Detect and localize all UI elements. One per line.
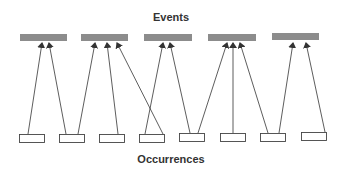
occurrence-3-box — [100, 135, 125, 143]
arrow-occurrence-5-to-event-4 — [198, 43, 227, 133]
arrow-occurrence-4-to-event-3 — [145, 43, 163, 134]
occurrences-label: Occurrences — [0, 153, 342, 165]
arrow-occurrence-7-to-event-5 — [279, 43, 293, 133]
event-2-bar — [81, 34, 128, 41]
occurrence-8-box — [302, 133, 327, 141]
arrow-occurrence-4-to-event-2 — [117, 43, 163, 134]
arrow-occurrence-2-to-event-2 — [78, 43, 95, 134]
event-4-bar — [208, 34, 256, 41]
arrow-occurrence-7-to-event-4 — [240, 43, 268, 133]
occurrence-2-box — [60, 135, 85, 143]
event-5-bar — [272, 33, 319, 40]
arrow-occurrence-3-to-event-2 — [107, 43, 118, 134]
occurrence-1-box — [20, 135, 45, 143]
event-3-bar — [144, 34, 192, 41]
arrows — [28, 43, 325, 134]
occurrence-6-box — [221, 134, 246, 142]
event-occurrence-diagram — [0, 0, 342, 174]
event-1-bar — [20, 34, 67, 41]
occurrences — [20, 133, 327, 143]
events — [20, 33, 319, 41]
occurrence-7-box — [261, 134, 286, 142]
occurrence-5-box — [180, 134, 205, 142]
arrow-occurrence-1-to-event-1 — [28, 43, 42, 134]
occurrence-4-box — [140, 135, 165, 143]
arrow-occurrence-5-to-event-3 — [170, 43, 190, 133]
arrow-occurrence-8-to-event-5 — [306, 43, 325, 132]
arrow-occurrence-2-to-event-1 — [49, 43, 66, 134]
